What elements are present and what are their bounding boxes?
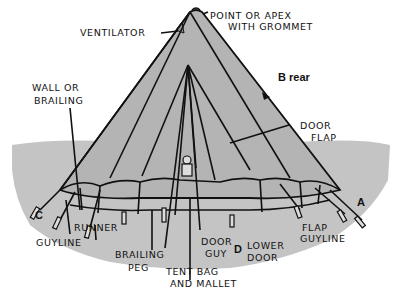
label-apex-line2: WITH GROMMET (228, 21, 313, 32)
label-corner-a: A (357, 197, 365, 208)
label-ventilator: VENTILATOR (80, 27, 145, 38)
label-brailing-peg-line2: PEG (128, 262, 149, 273)
label-lower-door-line2: DOOR (247, 252, 278, 263)
label-door-flap-line2: FLAP (311, 132, 337, 143)
label-tent-bag-line2: AND MALLET (170, 278, 237, 289)
label-brailing-peg-line1: BRAILING (115, 249, 164, 260)
label-wall-line2: BRAILING (34, 95, 83, 106)
label-door-guy-line2: GUY (205, 248, 227, 259)
tent-body (60, 10, 340, 198)
label-rear: B rear (278, 72, 310, 83)
label-corner-d: D (234, 244, 242, 255)
tent-diagram: VENTILATOR POINT OR APEX WITH GROMMET WA… (0, 0, 395, 289)
label-corner-c: C (35, 210, 43, 221)
label-door-guy-line1: DOOR (201, 236, 232, 247)
label-lower-door-line1: LOWER (247, 240, 284, 251)
label-wall-line1: WALL OR (32, 82, 79, 93)
label-guyline: GUYLINE (36, 237, 82, 248)
label-door-flap-line1: DOOR (300, 120, 331, 131)
label-runner: RUNNER (74, 222, 118, 233)
label-flap-guyline-line1: FLAP (302, 222, 328, 233)
label-apex-line1: POINT OR APEX (210, 10, 292, 21)
label-flap-guyline-line2: GUYLINE (300, 233, 346, 244)
label-tent-bag-line1: TENT BAG (166, 266, 219, 277)
